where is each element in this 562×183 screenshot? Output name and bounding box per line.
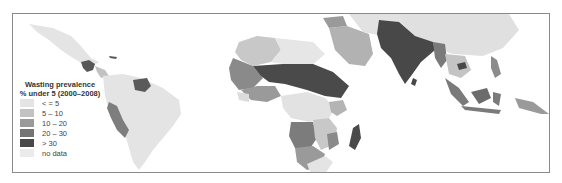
legend-swatch bbox=[20, 129, 34, 137]
region-caribbean[interactable] bbox=[109, 56, 117, 59]
legend-title-line2: % under 5 (2000–2008) bbox=[19, 89, 101, 98]
legend-item: 5 – 10 bbox=[20, 108, 129, 118]
region-kenya[interactable] bbox=[329, 100, 347, 116]
legend-swatch bbox=[20, 139, 34, 147]
legend-item: 20 – 30 bbox=[20, 128, 129, 138]
region-java[interactable] bbox=[461, 106, 501, 114]
region-iraq[interactable] bbox=[323, 16, 347, 28]
region-sulawesi[interactable] bbox=[493, 92, 501, 106]
region-sumatra[interactable] bbox=[445, 78, 469, 106]
legend: Wasting prevalence % under 5 (2000–2008)… bbox=[19, 80, 129, 158]
legend-item: 10 – 20 bbox=[20, 118, 129, 128]
legend-swatch bbox=[20, 109, 34, 117]
legend-label: < = 5 bbox=[42, 99, 59, 108]
region-madagascar[interactable] bbox=[349, 124, 361, 150]
region-myanmar[interactable] bbox=[433, 42, 447, 68]
region-central-africa[interactable] bbox=[281, 92, 335, 122]
region-mozambique[interactable] bbox=[327, 132, 339, 150]
legend-item: > 30 bbox=[20, 138, 129, 148]
legend-label: 10 – 20 bbox=[42, 119, 67, 128]
region-mexico[interactable] bbox=[29, 24, 99, 66]
legend-swatch bbox=[20, 149, 34, 157]
legend-swatch bbox=[20, 99, 34, 107]
map-frame: Wasting prevalence % under 5 (2000–2008)… bbox=[12, 13, 550, 173]
region-sri-lanka[interactable] bbox=[411, 78, 417, 86]
legend-label: 5 – 10 bbox=[42, 109, 63, 118]
legend-label: no data bbox=[42, 149, 67, 158]
region-angola[interactable] bbox=[289, 122, 317, 150]
legend-swatch bbox=[20, 119, 34, 127]
legend-label: 20 – 30 bbox=[42, 129, 67, 138]
legend-item: no data bbox=[20, 148, 129, 158]
legend-item: < = 5 bbox=[20, 98, 129, 108]
legend-title: Wasting prevalence % under 5 (2000–2008) bbox=[19, 80, 101, 98]
legend-title-line1: Wasting prevalence bbox=[19, 80, 101, 89]
region-papua[interactable] bbox=[515, 98, 549, 114]
region-philippines[interactable] bbox=[491, 56, 501, 78]
region-borneo[interactable] bbox=[471, 88, 491, 104]
legend-label: > 30 bbox=[42, 139, 57, 148]
